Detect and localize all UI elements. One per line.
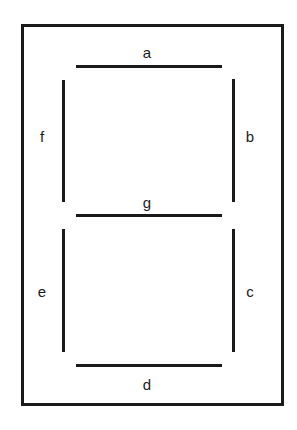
segment-d [76,364,222,367]
segment-c-label: c [246,284,254,299]
segment-b-label: b [246,129,254,144]
segment-f-label: f [40,129,44,144]
segment-f [62,80,65,202]
segment-a [76,65,222,68]
segment-g [76,214,222,217]
segment-g-label: g [143,195,151,210]
segment-a-label: a [143,45,151,60]
segment-e-label: e [38,284,46,299]
segment-c [232,229,235,352]
segment-b [232,79,235,202]
segment-e [62,229,65,352]
segment-d-label: d [143,377,151,392]
